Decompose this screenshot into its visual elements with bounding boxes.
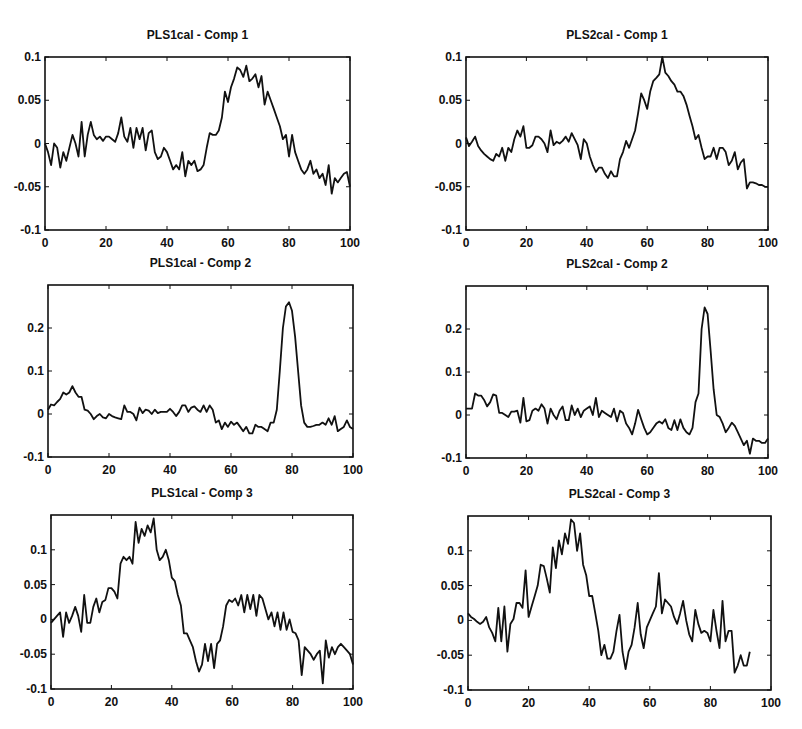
data-series-line (466, 57, 768, 189)
y-tick-label: 0.1 (445, 365, 462, 379)
x-tick-label: 100 (343, 695, 363, 709)
x-tick-label: 40 (580, 236, 594, 250)
figure-canvas: PLS1cal - Comp 1020406080100-0.1-0.0500.… (0, 0, 802, 729)
x-tick-label: 0 (465, 696, 472, 710)
y-tick-label: 0.05 (24, 578, 48, 592)
subplot-title: PLS1cal - Comp 2 (150, 256, 252, 270)
y-tick-label: -0.1 (441, 223, 462, 237)
x-tick-label: 20 (520, 464, 534, 478)
axes-box (45, 57, 350, 230)
y-tick-label: 0.1 (30, 543, 47, 557)
y-tick-label: 0 (455, 408, 462, 422)
x-tick-label: 60 (643, 696, 657, 710)
subplot-2: PLS2cal - Comp 1020406080100-0.1-0.0500.… (435, 28, 779, 250)
y-tick-label: 0 (40, 612, 47, 626)
data-series-line (48, 302, 353, 433)
x-tick-label: 100 (758, 464, 778, 478)
axes-box (466, 57, 768, 230)
x-tick-label: 80 (701, 236, 715, 250)
y-tick-label: 0.1 (445, 50, 462, 64)
x-tick-label: 20 (102, 463, 116, 477)
subplot-3: PLS1cal - Comp 2020406080100-0.100.10.2 (23, 256, 363, 477)
data-series-line (51, 519, 353, 684)
x-tick-label: 60 (224, 463, 238, 477)
subplot-6: PLS2cal - Comp 3020406080100-0.1-0.0500.… (437, 487, 782, 710)
x-tick-label: 100 (758, 236, 778, 250)
x-tick-label: 100 (343, 463, 363, 477)
subplot-title: PLS1cal - Comp 3 (151, 486, 253, 500)
subplot-title: PLS2cal - Comp 3 (569, 487, 671, 501)
x-tick-label: 40 (580, 464, 594, 478)
y-tick-label: 0 (34, 137, 41, 151)
x-tick-label: 40 (160, 236, 174, 250)
subplot-5: PLS1cal - Comp 3020406080100-0.1-0.0500.… (20, 486, 364, 709)
subplot-title: PLS1cal - Comp 1 (147, 28, 249, 42)
y-tick-label: -0.1 (20, 223, 41, 237)
axes-box (466, 286, 768, 458)
x-tick-label: 60 (641, 464, 655, 478)
x-tick-label: 20 (105, 695, 119, 709)
subplot-4: PLS2cal - Comp 2020406080100-0.100.10.2 (441, 257, 778, 478)
subplot-1: PLS1cal - Comp 1020406080100-0.1-0.0500.… (14, 28, 361, 250)
x-tick-label: 0 (42, 236, 49, 250)
x-tick-label: 40 (163, 463, 177, 477)
y-tick-label: -0.05 (435, 180, 463, 194)
y-tick-label: -0.1 (441, 451, 462, 465)
data-series-line (466, 308, 768, 454)
y-tick-label: 0 (455, 137, 462, 151)
y-tick-label: -0.05 (20, 647, 48, 661)
y-tick-label: 0 (457, 613, 464, 627)
x-tick-label: 0 (463, 236, 470, 250)
figure: PLS1cal - Comp 1020406080100-0.1-0.0500.… (0, 0, 802, 729)
y-tick-label: 0.2 (27, 321, 44, 335)
x-tick-label: 100 (340, 236, 360, 250)
x-tick-label: 80 (286, 695, 300, 709)
x-tick-label: 20 (522, 696, 536, 710)
subplot-title: PLS2cal - Comp 1 (566, 28, 668, 42)
y-tick-label: 0.1 (447, 544, 464, 558)
x-tick-label: 60 (641, 236, 655, 250)
axes-box (468, 516, 771, 690)
x-tick-label: 20 (520, 236, 534, 250)
subplot-title: PLS2cal - Comp 2 (566, 257, 668, 271)
x-tick-label: 80 (282, 236, 296, 250)
y-tick-label: -0.1 (23, 450, 44, 464)
y-tick-label: -0.05 (437, 648, 465, 662)
y-tick-label: -0.1 (443, 683, 464, 697)
x-tick-label: 80 (704, 696, 718, 710)
data-series-line (45, 66, 350, 194)
x-tick-label: 0 (45, 463, 52, 477)
y-tick-label: 0.1 (27, 364, 44, 378)
x-tick-label: 0 (463, 464, 470, 478)
y-tick-label: 0.05 (441, 579, 465, 593)
x-tick-label: 80 (285, 463, 299, 477)
axes-box (48, 285, 353, 457)
y-tick-label: 0.05 (18, 93, 42, 107)
data-series-line (468, 520, 750, 673)
x-tick-label: 60 (221, 236, 235, 250)
y-tick-label: 0.2 (445, 322, 462, 336)
x-tick-label: 20 (99, 236, 113, 250)
y-tick-label: 0 (37, 407, 44, 421)
y-tick-label: -0.05 (14, 180, 42, 194)
x-tick-label: 80 (701, 464, 715, 478)
x-tick-label: 40 (165, 695, 179, 709)
y-tick-label: 0.1 (24, 50, 41, 64)
x-tick-label: 0 (48, 695, 55, 709)
y-tick-label: -0.1 (26, 682, 47, 696)
x-tick-label: 40 (583, 696, 597, 710)
x-tick-label: 100 (761, 696, 781, 710)
x-tick-label: 60 (226, 695, 240, 709)
y-tick-label: 0.05 (439, 93, 463, 107)
